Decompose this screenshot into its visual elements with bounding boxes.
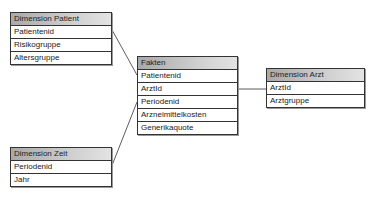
field-patientenid[interactable]: Patientenid: [138, 70, 237, 83]
table-header: Dimension Arzt: [267, 69, 364, 82]
field-arztid[interactable]: ArztId: [267, 82, 364, 95]
relation-zeit-fakten: [111, 102, 137, 168]
field-arztid[interactable]: ArztId: [138, 83, 237, 96]
field-periodenid[interactable]: Periodenid: [11, 161, 111, 174]
table-dimension-patient[interactable]: Dimension Patient Patientenid Risikogrup…: [10, 12, 112, 65]
table-fakten[interactable]: Fakten Patientenid ArztId Periodenid Arz…: [137, 56, 238, 135]
table-header: Dimension Patient: [11, 13, 111, 26]
field-periodenid[interactable]: Periodenid: [138, 96, 237, 109]
field-jahr[interactable]: Jahr: [11, 174, 111, 186]
table-header: Dimension Zeit: [11, 148, 111, 161]
table-dimension-arzt[interactable]: Dimension Arzt ArztId Arztgruppe: [266, 68, 365, 108]
table-header: Fakten: [138, 57, 237, 70]
field-arztgruppe[interactable]: Arztgruppe: [267, 95, 364, 107]
field-generikaquote[interactable]: Generikaquote: [138, 122, 237, 134]
table-dimension-zeit[interactable]: Dimension Zeit Periodenid Jahr: [10, 147, 112, 187]
field-risikogruppe[interactable]: Risikogruppe: [11, 39, 111, 52]
field-altersgruppe[interactable]: Altersgruppe: [11, 52, 111, 64]
field-patientenid[interactable]: Patientenid: [11, 26, 111, 39]
relation-patient-fakten: [111, 28, 137, 75]
field-arzneimittelkosten[interactable]: Arzneimittelkosten: [138, 109, 237, 122]
